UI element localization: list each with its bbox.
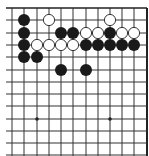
go-board[interactable] [0, 0, 149, 156]
white-stone[interactable] [128, 27, 139, 38]
black-stone[interactable] [31, 51, 43, 63]
white-stone[interactable] [80, 27, 91, 38]
go-board-grid[interactable] [0, 0, 149, 156]
black-stone[interactable] [104, 39, 116, 51]
black-stone[interactable] [92, 39, 104, 51]
black-stone[interactable] [18, 27, 30, 39]
black-stone[interactable] [80, 64, 92, 76]
black-stone[interactable] [116, 39, 128, 51]
white-stone[interactable] [67, 39, 78, 50]
black-stone[interactable] [18, 39, 30, 51]
white-stone[interactable] [116, 27, 127, 38]
black-stone[interactable] [104, 27, 116, 39]
black-stone[interactable] [80, 39, 92, 51]
white-stone[interactable] [55, 39, 66, 50]
white-stone[interactable] [92, 27, 103, 38]
white-stone[interactable] [43, 39, 54, 50]
black-stone[interactable] [55, 27, 67, 39]
star-point [108, 117, 112, 121]
black-stone[interactable] [18, 14, 30, 26]
black-stone[interactable] [128, 39, 140, 51]
white-stone[interactable] [104, 14, 115, 25]
black-stone[interactable] [67, 27, 79, 39]
star-point [35, 117, 39, 121]
white-stone[interactable] [31, 39, 42, 50]
black-stone[interactable] [18, 51, 30, 63]
white-stone[interactable] [43, 14, 54, 25]
black-stone[interactable] [55, 64, 67, 76]
